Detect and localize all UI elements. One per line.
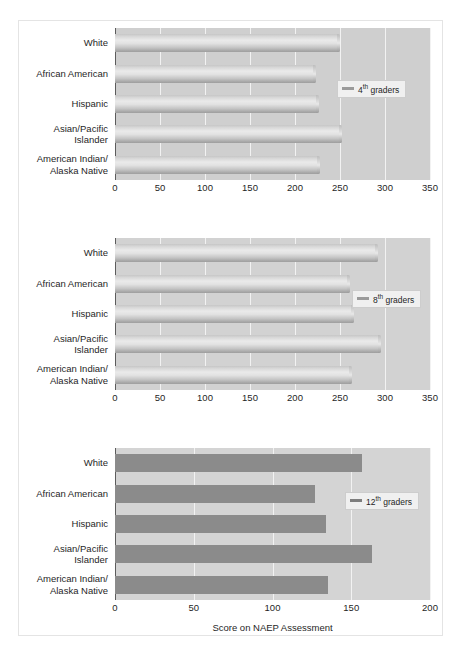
x-tick-label: 50 [155,392,166,403]
category-label: Asian/Pacific Islander [0,543,108,566]
category-label: American Indian/ Alaska Native [0,363,108,386]
plot-area [115,238,430,390]
bar-row [115,125,430,143]
legend: 12th graders [345,492,419,510]
x-tick-label: 150 [343,602,359,613]
x-tick-label: 50 [188,602,199,613]
bar-row [115,545,430,563]
x-axis: 050100150200250300350 [0,182,461,196]
legend-label: 4th graders [358,83,399,95]
bar [115,275,350,293]
legend: 8th graders [352,290,421,308]
chart-panel-12th-graders: WhiteAfrican AmericanHispanicAsian/Pacif… [0,442,461,634]
chart-panel-8th-graders: WhiteAfrican AmericanHispanicAsian/Pacif… [0,232,461,420]
x-tick-label: 0 [112,182,117,193]
gridline-350 [430,238,431,390]
x-tick-label: 100 [197,182,213,193]
bar [115,576,328,594]
x-tick-label: 350 [422,182,438,193]
bar [115,485,315,503]
legend-swatch-icon [350,499,362,502]
category-label: African American [0,278,108,290]
bar [115,65,316,83]
x-tick-label: 150 [242,182,258,193]
legend-swatch-icon [357,297,369,300]
category-label: White [0,247,108,259]
bar [115,125,342,143]
bar [115,156,320,174]
category-label: Hispanic [0,98,108,110]
bar [115,244,378,262]
bar-row [115,34,430,52]
category-label: American Indian/ Alaska Native [0,153,108,176]
naep-score-figure: WhiteAfrican AmericanHispanicAsian/Pacif… [0,0,461,654]
x-tick-label: 100 [265,602,281,613]
legend-swatch-icon [342,87,354,90]
x-tick-label: 300 [377,182,393,193]
gridline-200 [430,448,431,600]
bar [115,366,352,384]
x-tick-label: 100 [197,392,213,403]
gridline-350 [430,28,431,180]
bar-row [115,454,430,472]
bar-row [115,156,430,174]
bar-row [115,244,430,262]
x-tick-label: 250 [332,182,348,193]
plot-area [115,448,430,600]
category-label: Asian/Pacific Islander [0,123,108,146]
bar [115,545,372,563]
x-axis-title: Score on NAEP Assessment [115,622,430,633]
category-label: Hispanic [0,518,108,530]
category-label: White [0,37,108,49]
category-label: White [0,457,108,469]
category-label: African American [0,68,108,80]
category-label: American Indian/ Alaska Native [0,573,108,596]
x-tick-label: 150 [242,392,258,403]
plot-area [115,28,430,180]
legend-label: 8th graders [373,293,414,305]
x-tick-label: 0 [112,602,117,613]
bar [115,95,319,113]
category-label: Asian/Pacific Islander [0,333,108,356]
x-tick-label: 200 [287,392,303,403]
bar [115,515,326,533]
legend-label: 12th graders [366,495,412,507]
bar [115,454,362,472]
bar-row [115,576,430,594]
x-tick-label: 200 [422,602,438,613]
x-axis: 050100150200250300350 [0,392,461,406]
x-tick-label: 0 [112,392,117,403]
bar [115,34,340,52]
x-tick-label: 250 [332,392,348,403]
bar-row [115,366,430,384]
x-tick-label: 50 [155,182,166,193]
bar [115,335,381,353]
x-tick-label: 350 [422,392,438,403]
legend: 4th graders [337,80,406,98]
x-axis: 050100150200 [0,602,461,616]
category-label: African American [0,488,108,500]
chart-panel-4th-graders: WhiteAfrican AmericanHispanicAsian/Pacif… [0,22,461,210]
bar-row [115,515,430,533]
x-tick-label: 300 [377,392,393,403]
category-label: Hispanic [0,308,108,320]
bar-row [115,335,430,353]
x-tick-label: 200 [287,182,303,193]
bar [115,305,354,323]
